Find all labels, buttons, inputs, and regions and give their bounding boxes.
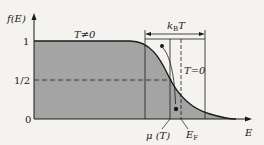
mu-leader-line (162, 119, 170, 129)
final-state-dot (174, 107, 178, 111)
x-axis-arrow-icon (245, 117, 252, 122)
kbt-left-arrowhead-icon (145, 32, 151, 36)
kbt-label: kBT (167, 20, 186, 33)
x-axis-label: E (244, 127, 253, 138)
fermi-leader-line (181, 119, 188, 129)
kbt-right-arrowhead-icon (199, 32, 205, 36)
finite-temp-label: T≠0 (74, 29, 96, 40)
fermi-energy-label: EF (185, 129, 198, 142)
y-tick-half: 1/2 (14, 75, 30, 86)
zero-temp-label: T=0 (184, 65, 206, 76)
fermi-dirac-diagram: f(E) 1 1/2 0 E T≠0 T=0 kBT μ (T) EF (0, 0, 264, 145)
chemical-potential-label: μ (T) (146, 130, 170, 141)
y-tick-0: 0 (25, 114, 31, 125)
y-tick-1: 1 (23, 36, 29, 47)
y-axis-label: f(E) (6, 13, 26, 24)
initial-state-dot (160, 44, 164, 48)
y-axis-arrow-icon (32, 13, 37, 20)
